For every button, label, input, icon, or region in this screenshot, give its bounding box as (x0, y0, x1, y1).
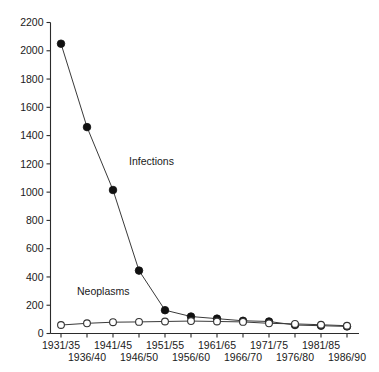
y-tick-label: 1400 (20, 129, 44, 141)
series-annotation-infections: Infections (129, 155, 174, 167)
x-tick-label: 1981/85 (302, 339, 340, 351)
data-point-neoplasms (266, 320, 273, 327)
data-point-neoplasms (110, 319, 117, 326)
chart-container: 0200400600800100012001400160018002000220… (0, 0, 379, 372)
y-tick-label: 2000 (20, 44, 44, 56)
data-point-neoplasms (318, 321, 325, 328)
data-point-neoplasms (84, 320, 91, 327)
series-annotation-neoplasms: Neoplasms (77, 285, 130, 297)
data-point-infections (161, 306, 169, 314)
x-tick-label: 1986/90 (328, 351, 366, 363)
data-point-neoplasms (188, 318, 195, 325)
x-tick-label: 1941/45 (94, 339, 132, 351)
y-tick-label: 600 (26, 242, 44, 254)
y-tick-label: 400 (26, 271, 44, 283)
x-tick-label: 1966/70 (224, 351, 262, 363)
x-tick-label: 1936/40 (68, 351, 106, 363)
x-tick-label: 1971/75 (250, 339, 288, 351)
data-point-neoplasms (240, 319, 247, 326)
data-point-neoplasms (214, 318, 221, 325)
y-tick-label: 1200 (20, 158, 44, 170)
data-point-infections (109, 186, 117, 194)
y-tick-label: 1000 (20, 186, 44, 198)
data-point-neoplasms (162, 318, 169, 325)
x-tick-label: 1976/80 (276, 351, 314, 363)
y-tick-label: 800 (26, 214, 44, 226)
x-tick-label: 1951/55 (146, 339, 184, 351)
y-tick-label: 2200 (20, 16, 44, 28)
data-point-infections (83, 123, 91, 131)
data-point-neoplasms (344, 322, 351, 329)
x-tick-label: 1931/35 (42, 339, 80, 351)
y-tick-label: 1800 (20, 73, 44, 85)
x-tick-label: 1961/65 (198, 339, 236, 351)
line-chart: 0200400600800100012001400160018002000220… (0, 0, 379, 372)
y-tick-label: 1600 (20, 101, 44, 113)
y-tick-label: 0 (38, 327, 44, 339)
y-tick-label: 200 (26, 299, 44, 311)
x-tick-label: 1956/60 (172, 351, 210, 363)
x-tick-label: 1946/50 (120, 351, 158, 363)
data-point-neoplasms (58, 322, 65, 329)
data-point-infections (135, 267, 143, 275)
data-point-neoplasms (136, 319, 143, 326)
data-point-neoplasms (292, 320, 299, 327)
data-point-infections (57, 40, 65, 48)
